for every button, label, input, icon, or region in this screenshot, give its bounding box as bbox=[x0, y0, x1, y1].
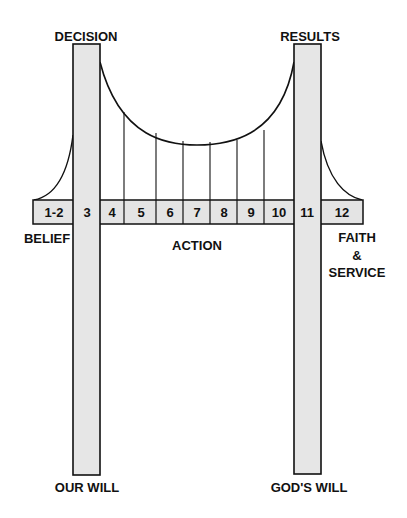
step-7: 7 bbox=[193, 205, 200, 220]
label-gods-will: GOD'S WILL bbox=[271, 480, 348, 495]
step-9: 9 bbox=[247, 205, 254, 220]
step-8: 8 bbox=[220, 205, 227, 220]
step-4: 4 bbox=[108, 205, 115, 220]
label-belief: BELIEF bbox=[24, 231, 70, 246]
step-1-2: 1-2 bbox=[45, 205, 64, 220]
right-anchor-cable bbox=[321, 141, 362, 200]
label-decision: DECISION bbox=[55, 29, 118, 44]
left-anchor-cable bbox=[34, 135, 73, 200]
step-3: 3 bbox=[83, 205, 90, 220]
step-10: 10 bbox=[272, 205, 286, 220]
label-faith: FAITH bbox=[338, 230, 376, 245]
step-12: 12 bbox=[335, 205, 349, 220]
left-tower bbox=[73, 44, 100, 475]
right-tower bbox=[294, 44, 321, 474]
label-service: SERVICE bbox=[329, 265, 386, 280]
step-5: 5 bbox=[137, 205, 144, 220]
step-6: 6 bbox=[166, 205, 173, 220]
label-ampersand: & bbox=[352, 248, 361, 263]
label-our-will: OUR WILL bbox=[55, 480, 119, 495]
label-action: ACTION bbox=[172, 238, 222, 253]
bridge-diagram bbox=[0, 0, 407, 518]
step-11: 11 bbox=[300, 205, 314, 220]
main-cable bbox=[100, 62, 294, 145]
label-results: RESULTS bbox=[280, 29, 340, 44]
suspender-lines bbox=[124, 112, 264, 200]
